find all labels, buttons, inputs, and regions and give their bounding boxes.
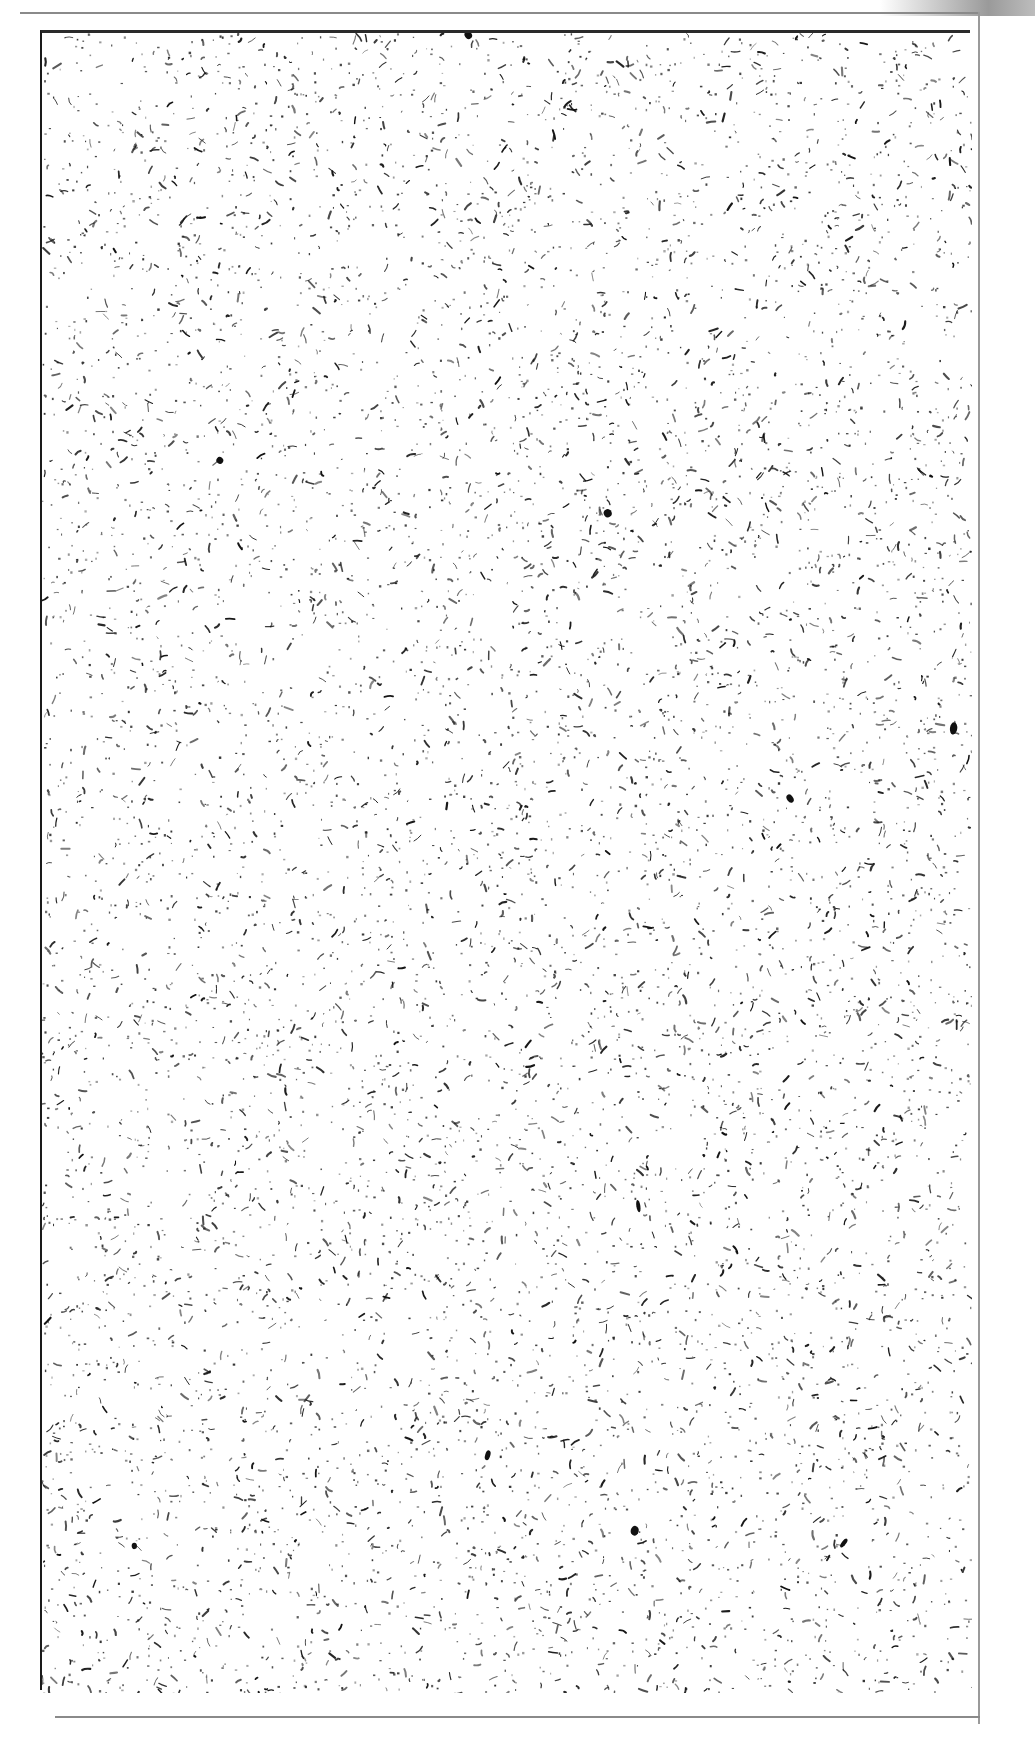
sheet-bottom-edge: [55, 1716, 980, 1718]
speckle-frame: [40, 30, 970, 1690]
speckle-noise-field: [42, 33, 972, 1693]
sheet-right-edge: [978, 12, 980, 1724]
sheet-top-edge: [20, 12, 980, 14]
scanned-page: [0, 0, 1035, 1762]
